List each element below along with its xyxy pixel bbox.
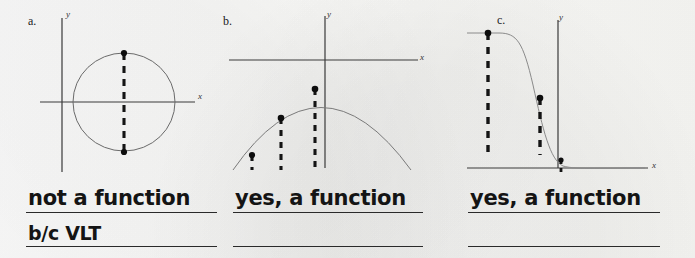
panel-a-intersection-point-top: [121, 50, 127, 56]
panel-c-intersection-point-1: [485, 30, 492, 37]
panel-b-intersection-point-2: [278, 115, 285, 122]
panel-b-answer-line-1: yes, a function: [235, 186, 406, 210]
panel-a-answer-line-2: b/c VLT: [28, 222, 101, 244]
panel-c-intersection-point-3: [558, 157, 563, 162]
panel-a-rule-1: [26, 212, 217, 213]
panel-a-graph: [0, 0, 218, 185]
panel-c-answer-line-1: yes, a function: [470, 186, 641, 210]
panel-c-intersection-point-2: [537, 95, 544, 102]
panel-b-intersection-point-3: [312, 86, 319, 93]
panel-b-parabola-curve: [233, 108, 411, 171]
panel-b-rule-2: [233, 246, 423, 247]
panel-c-sigmoid-curve: [467, 33, 645, 169]
panel-c-rule-2: [468, 246, 660, 247]
panel-c-graph: [455, 0, 695, 185]
panel-b: b. y x yes, a function: [215, 0, 455, 258]
panel-a-rule-2: [26, 246, 217, 247]
panel-a: a. y x not a function b/c VLT: [0, 0, 218, 258]
panel-b-rule-1: [233, 212, 423, 213]
panel-a-intersection-point-bottom: [121, 149, 127, 155]
panel-b-intersection-point-1: [249, 152, 255, 158]
panel-b-graph: [215, 0, 455, 185]
panel-c: c. y x yes, a function: [455, 0, 695, 258]
panel-c-rule-1: [468, 212, 660, 213]
panel-a-answer-line-1: not a function: [28, 186, 190, 210]
